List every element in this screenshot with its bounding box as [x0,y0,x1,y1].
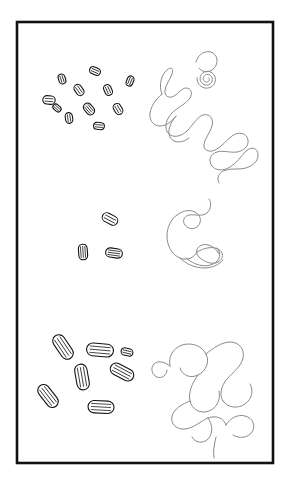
particle [43,95,56,104]
particle [65,112,74,124]
particle [93,122,104,130]
particle [88,400,115,414]
particle-outline [93,122,104,130]
particle-outline [65,112,74,124]
particle [86,342,114,357]
particle-outline [43,95,56,104]
particle [78,244,88,260]
illustration-canvas [0,0,290,484]
figure-root: Rod-shaped particle clusters and tangled… [0,0,290,484]
